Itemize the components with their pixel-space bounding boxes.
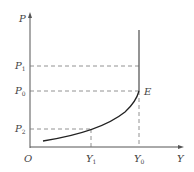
y-axis-arrow-icon — [28, 12, 32, 18]
y0-label: Y0 — [134, 153, 145, 165]
origin-label: O — [24, 153, 32, 164]
x-axis-label: Y — [177, 153, 185, 164]
p0-label: P0 — [14, 85, 26, 97]
supply-curve-diagram: P Y O P1 P0 P2 Y1 Y0 E — [0, 0, 194, 172]
x-axis-arrow-icon — [178, 145, 184, 149]
p1-label: P1 — [14, 60, 26, 72]
p2-label: P2 — [14, 123, 26, 135]
y-axis-label: P — [18, 13, 26, 24]
y1-label: Y1 — [86, 153, 96, 165]
supply-curve — [43, 91, 139, 141]
point-e-label: E — [143, 86, 152, 97]
